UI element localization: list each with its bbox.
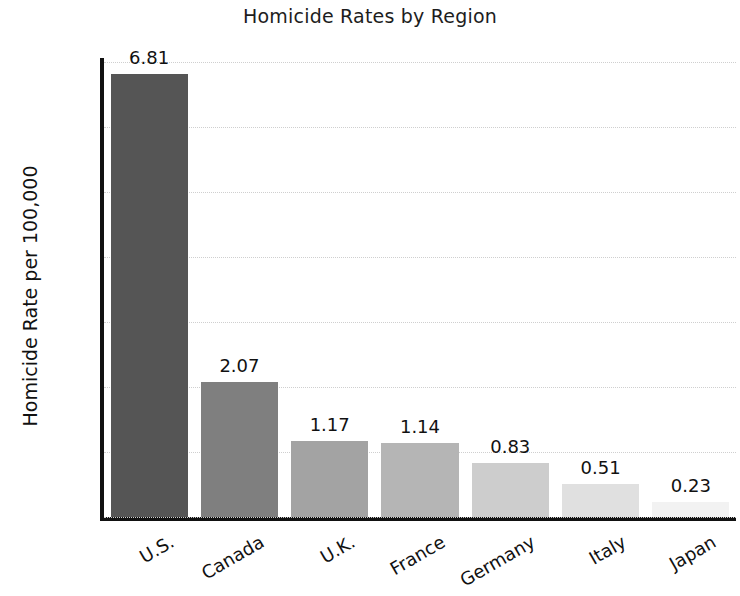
bar (652, 502, 729, 517)
gridline (104, 62, 736, 63)
gridline (104, 192, 736, 193)
bar-value-label: 0.83 (472, 436, 549, 457)
gridline (104, 322, 736, 323)
plot-area: 01234567 6.812.071.171.140.830.510.23 U.… (104, 62, 736, 517)
gridline (104, 257, 736, 258)
gridline (104, 387, 736, 388)
bar-value-label: 0.23 (652, 475, 729, 496)
bar-chart: Homicide Rates by Region Homicide Rate p… (0, 0, 740, 596)
bar-value-label: 2.07 (201, 355, 278, 376)
x-tick-label: U.S. (0, 531, 178, 596)
gridline (104, 127, 736, 128)
y-axis-label: Homicide Rate per 100,000 (19, 116, 41, 476)
bar (472, 463, 549, 517)
bar-value-label: 6.81 (111, 47, 188, 68)
bar (562, 484, 639, 517)
gridline (104, 517, 736, 518)
bar (291, 441, 368, 517)
bar-value-label: 0.51 (562, 457, 639, 478)
bar-value-label: 1.14 (381, 416, 458, 437)
bar (201, 382, 278, 517)
bar-value-label: 1.17 (291, 414, 368, 435)
bar (381, 443, 458, 517)
chart-title: Homicide Rates by Region (0, 5, 740, 27)
bar (111, 74, 188, 517)
